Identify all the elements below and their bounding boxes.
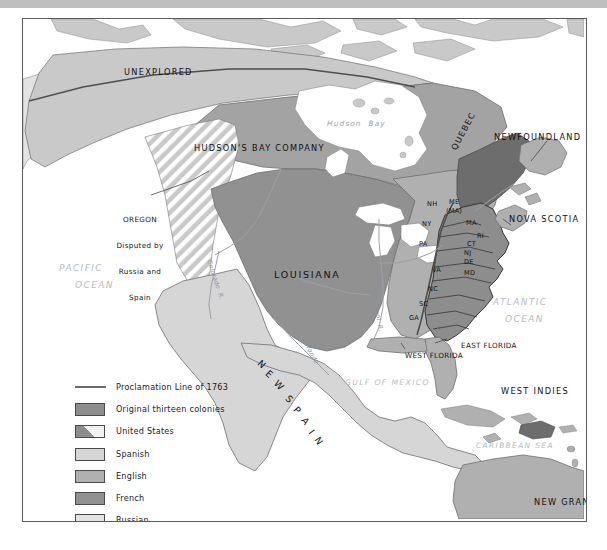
map-frame: UNEXPLORED HUDSON'S BAY COMPANY LOUISIAN… — [22, 18, 587, 522]
map-legend: Proclamation Line of 1763Original thirte… — [75, 378, 285, 522]
legend-label-spanish: Spanish — [116, 448, 150, 461]
legend-row-5[interactable]: French — [75, 489, 285, 511]
legend-label-original-thirteen-colonies: Original thirteen colonies — [116, 403, 225, 416]
legend-label-proclamation-line-of-1763: Proclamation Line of 1763 — [116, 381, 228, 394]
legend-swatch-proclamation-line — [75, 386, 106, 388]
legend-label-french: French — [116, 492, 144, 505]
legend-row-2[interactable]: United States — [75, 422, 285, 444]
legend-label-united-states: United States — [116, 425, 174, 438]
legend-row-1[interactable]: Original thirteen colonies — [75, 400, 285, 422]
legend-row-6[interactable]: Russian — [75, 511, 285, 522]
region-new-granada — [453, 455, 584, 519]
legend-label-russian: Russian — [116, 514, 149, 522]
legend-swatch-french — [75, 492, 105, 505]
legend-label-english: English — [116, 470, 147, 483]
legend-swatch-original-thirteen-colonies — [75, 403, 105, 416]
legend-swatch-spanish — [75, 448, 105, 461]
legend-swatch-united-states — [75, 425, 105, 438]
legend-swatch-russian — [75, 514, 105, 522]
legend-swatch-english — [75, 470, 105, 483]
top-chrome-bar — [0, 0, 607, 8]
legend-row-3[interactable]: Spanish — [75, 445, 285, 467]
legend-row-4[interactable]: English — [75, 467, 285, 489]
legend-row-0[interactable]: Proclamation Line of 1763 — [75, 378, 285, 400]
